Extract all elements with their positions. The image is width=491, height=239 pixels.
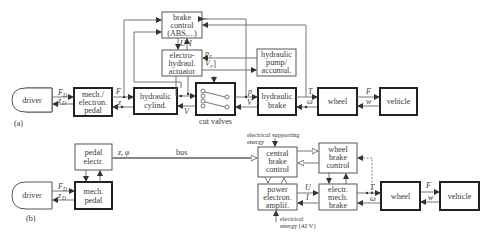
signal-V: V [247,98,253,107]
brake-system-diagram: driver (a) mech./ electron. pedal F D z … [0,0,491,239]
vehicle-label-a: vehicle [387,97,411,106]
wheel-brake-control-label-3: control [326,161,350,170]
supporting-energy-label-2: energy [247,138,265,145]
signal-I-a: I [188,39,192,48]
supporting-energy-label: electrical supporting [247,131,300,138]
wheel-label-a: wheel [328,97,348,106]
signal-zD-sub-b: D [61,195,66,201]
signal-p: p [247,87,252,96]
diagram-a: driver (a) mech./ electron. pedal F D z … [12,12,417,128]
signal-T-a: T [308,87,313,96]
actuator-label-3: actuator [169,67,196,76]
wheel-label-b: wheel [391,192,411,201]
mech-pedal-label-1: mech. [84,187,104,196]
cut-valves-label: cut valves [199,117,232,126]
central-brake-control-label-3: control [266,165,290,174]
power-amplif-label-3: amplif. [266,201,289,210]
vehicle-label-b: vehicle [448,192,472,201]
signal-U-a: U [180,39,187,48]
signal-F-wheel-b: F [425,181,431,190]
signal-w-a: w [366,97,372,106]
signal-V-cyl: V [184,107,190,116]
signal-T-b: T [370,183,375,192]
pump-label-3: accumul. [262,66,292,75]
signal-FD-sub-b: D [62,186,67,192]
hydraulic-brake-label-2: brake [268,101,287,110]
signal-omega-b: ω [370,194,376,203]
signal-zD-sub-a: D [61,100,66,106]
energy-42v-label: electrical [280,215,304,222]
signal-FD-sub-a: D [62,92,67,98]
hydraulic-brake-label-1: hydraulic [262,92,293,101]
diagram-a-label: (a) [14,119,23,128]
pedal-electr-label-1: pedal [85,148,103,157]
signal-omega-a: ω [307,97,313,106]
signal-F-pedal: F [115,87,121,96]
driver-label-b: driver [22,191,42,200]
signal-z-phi: z, φ [117,148,130,157]
pedal-label-3: pedal [84,106,102,115]
pedal-electr-label-2: electr. [84,157,104,166]
signal-VP-sub: P [209,64,213,69]
bus-label: bus [176,148,187,157]
diagram-b: pedal electr. z, φ bus mech. pedal drive… [12,131,479,230]
electr-mech-brake-label-3: brake [329,201,348,210]
cylinder-label-2: cylind. [144,101,167,110]
signal-F-wheel-a: F [365,87,371,96]
energy-42v-label-2: energy (42 V) [280,222,316,230]
signal-I-b: I [305,193,309,202]
diagram-b-label: (b) [26,214,36,223]
driver-label-a: driver [22,96,42,105]
signal-z-pedal: z [117,98,122,107]
mech-pedal-label-2: pedal [85,196,103,205]
signal-pP-sub: P [208,54,212,59]
cylinder-label-1: hydraulic [140,92,171,101]
signal-w-b: w [428,193,434,202]
brake-control-label-3: (ABS,...) [167,29,197,38]
signal-U-b: U [305,183,312,192]
